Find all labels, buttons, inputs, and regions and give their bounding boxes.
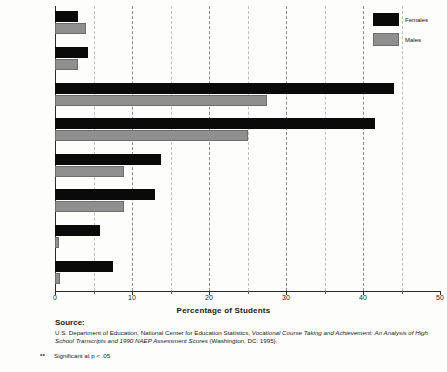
gridline-minor [325,6,326,291]
gridline-major [286,6,287,291]
tick-label: 50 [436,294,444,301]
legend: Females Males [373,13,428,53]
tick-minor [325,291,326,294]
tick-label: 40 [359,294,367,301]
gridline-minor [94,6,95,291]
source-title-italic-1: Vocational Course Taking and Achievement… [252,329,373,336]
tick-minor [402,291,403,294]
legend-label-females: Females [405,17,428,23]
source-text-part2: (Washington, DC: 1995). [208,337,278,344]
bar-males [55,237,59,248]
bar-males [55,59,78,70]
legend-label-males: Males [405,37,421,43]
footnote: **Significant at p < .05 [40,352,110,359]
bar-males [55,130,248,141]
gridline-major [132,6,133,291]
bar-males [55,23,86,34]
bar-males [55,95,267,106]
legend-swatch-females [373,13,399,26]
tick-minor [248,291,249,294]
tick-label: 10 [128,294,136,301]
source-text-part1: U.S. Department of Education, National C… [55,329,252,336]
gridline-major [209,6,210,291]
gridline-minor [248,6,249,291]
bar-females [55,261,113,272]
legend-item-males: Males [373,33,428,46]
tick-minor [94,291,95,294]
bar-females [55,225,100,236]
bar-females [55,118,375,129]
chart-area: 01020304050 Art/Music Appreciationor His… [0,0,447,300]
footnote-text: Significant at p < .05 [54,352,110,359]
gridline-major [363,6,364,291]
bar-females [55,154,161,165]
bar-females [55,83,394,94]
bar-males [55,166,124,177]
bar-females [55,189,155,200]
bar-males [55,201,124,212]
legend-swatch-males [373,33,399,46]
bar-males [55,273,60,284]
bar-females [55,11,78,22]
tick-label: 0 [53,294,57,301]
footnote-stars: ** [40,352,54,359]
legend-item-females: Females [373,13,428,26]
source-heading: Source: [55,318,85,327]
bar-females [55,47,88,58]
tick-minor [171,291,172,294]
tick-label: 30 [282,294,290,301]
gridline-minor [171,6,172,291]
x-axis-title: Percentage of Students [0,306,447,315]
tick-label: 20 [205,294,213,301]
source-text: U.S. Department of Education, National C… [55,329,440,345]
